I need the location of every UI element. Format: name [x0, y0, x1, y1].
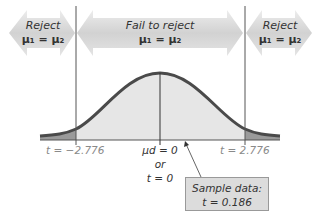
center-t-label: t = 0: [138, 172, 182, 184]
sample-pointer-line: [186, 144, 201, 177]
region-label: Fail to reject: [100, 19, 220, 33]
fail-to-reject-label: Fail to reject μ₁ = μ₂: [100, 19, 220, 47]
hypothesis-label: μ₁ = μ₂: [100, 33, 220, 47]
region-label: Reject: [250, 19, 310, 33]
center-mean-label: μd = 0: [138, 144, 182, 156]
region-label: Reject: [13, 19, 73, 33]
hypothesis-label: μ₁ = μ₂: [250, 33, 310, 47]
reject-right-label: Reject μ₁ = μ₂: [250, 19, 310, 47]
reject-left-label: Reject μ₁ = μ₂: [13, 19, 73, 47]
critical-value-right: t = 2.776: [220, 144, 270, 156]
critical-value-left: t = −2.776: [46, 144, 104, 156]
sample-data-box: Sample data: t = 0.186: [185, 177, 269, 211]
sample-data-value: t = 0.186: [186, 195, 268, 209]
hypothesis-label: μ₁ = μ₂: [13, 33, 73, 47]
center-or-label: or: [138, 158, 182, 170]
sample-data-title: Sample data:: [186, 181, 268, 195]
